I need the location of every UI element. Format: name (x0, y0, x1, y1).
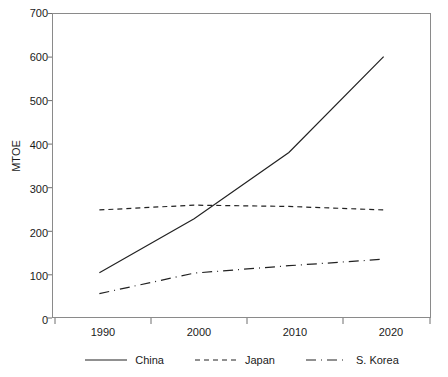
legend-label: S. Korea (356, 355, 399, 366)
legend-item-china[interactable]: China (84, 355, 164, 366)
x-axis-ticks (55, 318, 430, 324)
legend-item-skorea[interactable]: S. Korea (305, 355, 399, 366)
series-line-s-korea (99, 259, 383, 293)
solid-line-key-icon (84, 355, 128, 365)
legend-label: China (135, 355, 164, 366)
legend-item-japan[interactable]: Japan (194, 355, 275, 366)
legend-label: Japan (245, 355, 275, 366)
series-line-china (99, 57, 383, 273)
dotted-line-key-icon (194, 355, 238, 365)
dashed-line-key-icon (305, 355, 349, 365)
line-chart: MTOE 700 600 500 400 300 200 100 0 1990 … (0, 0, 448, 377)
series-layer (99, 57, 383, 294)
y-axis-ticks (47, 14, 52, 319)
series-line-japan (99, 205, 383, 210)
chart-svg (0, 0, 448, 377)
chart-legend: China Japan S. Korea (52, 350, 431, 370)
